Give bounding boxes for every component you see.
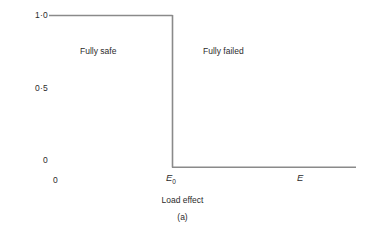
x-tick-label-e: E — [297, 173, 303, 183]
x-tick-label-e0: E0 — [166, 173, 176, 185]
figure-container: 1·0 0·5 0 Degree of satisfaction Fully s… — [0, 0, 365, 236]
x-tick-label-origin: 0 — [53, 176, 58, 185]
y-tick-label-1-0: 1·0 — [35, 11, 48, 20]
y-tick-label-0: 0 — [43, 156, 48, 165]
y-tick-label-0-5: 0·5 — [35, 84, 48, 93]
annotation-fully-failed: Fully failed — [203, 47, 244, 56]
x-tick-e0-subscript: 0 — [172, 178, 176, 185]
x-axis-title: Load effect — [0, 196, 365, 205]
annotation-fully-safe: Fully safe — [80, 47, 116, 56]
figure-caption: (a) — [0, 213, 365, 222]
